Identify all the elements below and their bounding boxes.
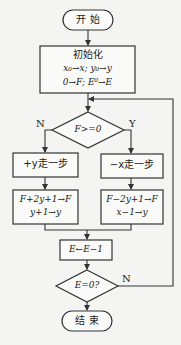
decision-e-label: E=0? bbox=[56, 280, 118, 290]
right-update-line1: F−2y+1→F bbox=[101, 194, 163, 204]
decision-f-label: F>=0 bbox=[52, 124, 124, 134]
init-line1: x₀→x; y₀→y bbox=[40, 63, 135, 73]
decision-e-no-label: N bbox=[122, 273, 131, 284]
right-step-label: −x走一步 bbox=[101, 159, 163, 171]
decrement-label: E←E−1 bbox=[60, 244, 112, 254]
init-line2: 0→F; E⁰→E bbox=[40, 77, 135, 87]
start-label: 开 始 bbox=[63, 14, 113, 26]
decision-f-yes-label: Y bbox=[129, 118, 136, 129]
init-title: 初始化 bbox=[40, 49, 135, 61]
right-update-line2: x−1→y bbox=[101, 207, 163, 217]
decision-f-no-label: N bbox=[36, 118, 45, 129]
left-update-line2: y+1→y bbox=[13, 207, 78, 217]
left-update-line1: F+2y+1→F bbox=[13, 194, 78, 204]
end-label: 结 束 bbox=[62, 315, 112, 327]
left-step-label: +y走一步 bbox=[13, 158, 78, 170]
